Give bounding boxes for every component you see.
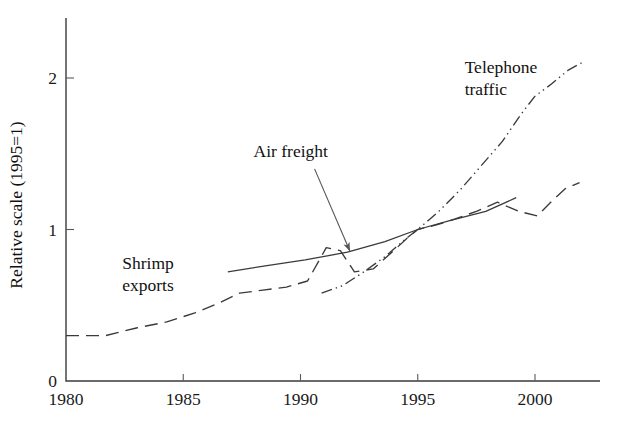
y-axis-ticks	[66, 78, 74, 230]
series-label-shrimp-exports-line1: Shrimp	[122, 253, 174, 273]
x-tick-label-1990: 1990	[283, 389, 318, 409]
series-line-air-freight	[228, 198, 516, 272]
y-tick-label-2: 2	[48, 68, 57, 88]
x-tick-label-1995: 1995	[400, 389, 435, 409]
x-tick-label-2000: 2000	[518, 389, 553, 409]
series-line-telephone-traffic	[322, 61, 585, 293]
annotations	[315, 169, 350, 251]
air-freight-leader-line	[315, 169, 350, 251]
series-label-telephone-traffic-line1: Telephone	[465, 57, 538, 77]
x-axis-ticks	[183, 374, 535, 381]
y-tick-label-1: 1	[48, 220, 57, 240]
x-tick-label-1980: 1980	[49, 389, 84, 409]
y-axis-tick-labels: 012	[48, 68, 57, 391]
y-axis-title: Relative scale (1995=1)	[6, 121, 26, 288]
relative-scale-line-chart: 19801985199019952000 012 Relative scale …	[0, 0, 619, 437]
series-label-air-freight: Air freight	[254, 141, 328, 161]
y-tick-label-0: 0	[48, 371, 57, 391]
x-tick-label-1985: 1985	[166, 389, 201, 409]
series-label-telephone-traffic-line2: traffic	[465, 79, 508, 99]
series-labels: Shrimp exports Air freight Telephone tra…	[122, 57, 537, 294]
series-label-shrimp-exports-line2: exports	[122, 275, 174, 295]
chart-canvas: 19801985199019952000 012 Relative scale …	[0, 0, 619, 437]
x-axis-tick-labels: 19801985199019952000	[49, 389, 553, 409]
